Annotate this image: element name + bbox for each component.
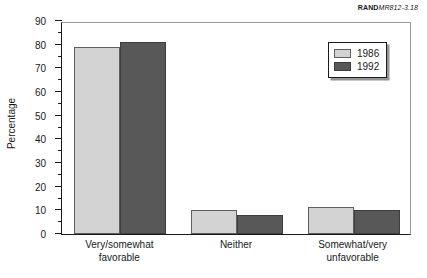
y-tick-major: 90	[55, 20, 62, 21]
bar-1986-cat0	[74, 47, 120, 234]
y-tick-label: 40	[35, 134, 46, 145]
y-tick-major: 20	[55, 186, 62, 187]
y-tick-label: 10	[35, 205, 46, 216]
bar-1992-cat1	[237, 215, 283, 234]
x-category-label-1: Neither	[220, 239, 252, 252]
y-tick-minor	[58, 79, 62, 80]
y-tick-label: 0	[40, 229, 46, 240]
y-tick-major: 60	[55, 91, 62, 92]
y-tick-label: 50	[35, 110, 46, 121]
y-tick-major: 30	[55, 162, 62, 163]
y-tick-minor	[58, 221, 62, 222]
legend-swatch-1992	[334, 62, 351, 71]
legend-label-1986: 1986	[357, 48, 379, 59]
x-category-label-2: Somewhat/veryunfavorable	[318, 239, 387, 264]
bar-1986-cat1	[191, 210, 237, 234]
bar-1992-cat2	[354, 210, 400, 234]
x-category-line-2: unfavorable	[318, 252, 387, 265]
y-tick-major: 50	[55, 115, 62, 116]
source-code: MR812-3.18	[378, 4, 418, 11]
y-tick-minor	[58, 127, 62, 128]
legend-swatch-1986	[334, 49, 351, 58]
y-tick-label: 80	[35, 39, 46, 50]
y-tick-minor	[58, 56, 62, 57]
y-tick-major: 0	[55, 233, 62, 234]
y-tick-label: 90	[35, 16, 46, 27]
x-category-line-1: Somewhat/very	[318, 239, 387, 252]
x-category-line-1: Neither	[220, 239, 252, 252]
x-category-line-1: Very/somewhat	[85, 239, 153, 252]
y-tick-major: 40	[55, 138, 62, 139]
chart-legend: 1986 1992	[328, 42, 387, 78]
x-category-line-2: favorable	[85, 252, 153, 265]
bar-1992-cat0	[120, 42, 166, 234]
y-tick-minor	[58, 103, 62, 104]
legend-item-1992: 1992	[334, 60, 379, 73]
y-axis-title: Percentage	[6, 79, 17, 169]
y-tick-minor	[58, 198, 62, 199]
y-tick-major: 10	[55, 209, 62, 210]
y-tick-major: 70	[55, 67, 62, 68]
y-tick-minor	[58, 32, 62, 33]
y-tick-label: 30	[35, 158, 46, 169]
source-brand: RAND	[358, 4, 379, 11]
y-tick-minor	[58, 150, 62, 151]
y-tick-major: 80	[55, 44, 62, 45]
source-credit: RANDMR812-3.18	[358, 4, 418, 11]
bar-chart-figure: RANDMR812-3.18 Percentage 01020304050607…	[0, 0, 427, 278]
bar-1986-cat2	[308, 207, 354, 234]
x-category-label-0: Very/somewhatfavorable	[85, 239, 153, 264]
y-tick-minor	[58, 174, 62, 175]
y-tick-label: 20	[35, 181, 46, 192]
legend-label-1992: 1992	[357, 61, 379, 72]
legend-item-1986: 1986	[334, 47, 379, 60]
y-tick-label: 70	[35, 63, 46, 74]
y-tick-label: 60	[35, 87, 46, 98]
